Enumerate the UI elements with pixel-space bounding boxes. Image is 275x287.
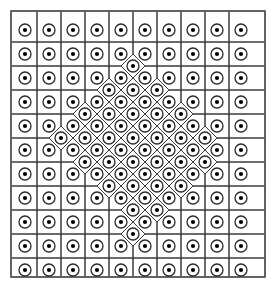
lattice-site-dot <box>119 148 123 152</box>
lattice-site-dot <box>23 76 27 80</box>
lattice-site-dot <box>47 100 51 104</box>
lattice-site-dot <box>23 196 27 200</box>
lattice-site-dot <box>167 172 171 176</box>
lattice-site-dot <box>119 124 123 128</box>
lattice-site-dot <box>143 196 147 200</box>
lattice-site-dot <box>191 172 195 176</box>
lattice-site-dot <box>23 124 27 128</box>
lattice-site-dot <box>107 184 111 188</box>
lattice-site-dot <box>143 172 147 176</box>
lattice-site-dot <box>191 148 195 152</box>
lattice-site-dot <box>47 172 51 176</box>
lattice-site-dot <box>215 172 219 176</box>
lattice-site-dot <box>167 100 171 104</box>
lattice-site-dot <box>71 148 75 152</box>
lattice-site-dot <box>167 28 171 32</box>
lattice-site-dot <box>155 88 159 92</box>
lattice-site-dot <box>191 244 195 248</box>
lattice-site-dot <box>95 148 99 152</box>
lattice-site-dot <box>131 184 135 188</box>
lattice-site-dot <box>83 136 87 140</box>
lattice-site-dot <box>191 52 195 56</box>
lattice-site-dot <box>191 196 195 200</box>
lattice-site-dot <box>215 28 219 32</box>
lattice-site-dot <box>23 268 27 272</box>
lattice-site-dot <box>143 268 147 272</box>
lattice-site-dot <box>167 76 171 80</box>
lattice-site-dot <box>215 244 219 248</box>
lattice-site-dot <box>95 124 99 128</box>
figure-canvas <box>0 0 275 287</box>
lattice-site-dot <box>239 220 243 224</box>
lattice-site-dot <box>155 184 159 188</box>
lattice-site-dot <box>23 100 27 104</box>
lattice-site-dot <box>23 28 27 32</box>
lattice-site-dot <box>47 28 51 32</box>
lattice-site-dot <box>215 76 219 80</box>
lattice-site-dot <box>239 244 243 248</box>
lattice-site-dot <box>119 28 123 32</box>
lattice-site-dot <box>131 112 135 116</box>
lattice-site-dot <box>239 196 243 200</box>
lattice-site-dot <box>71 196 75 200</box>
lattice-site-dot <box>95 52 99 56</box>
lattice-site-dot <box>95 268 99 272</box>
lattice-site-dot <box>23 244 27 248</box>
lattice-site-dot <box>119 172 123 176</box>
lattice-site-dot <box>131 160 135 164</box>
lattice-site-dot <box>239 148 243 152</box>
lattice-site-dot <box>95 196 99 200</box>
lattice-site-dot <box>155 208 159 212</box>
lattice-site-dot <box>191 268 195 272</box>
lattice-site-dot <box>143 220 147 224</box>
lattice-site-dot <box>119 268 123 272</box>
lattice-site-dot <box>71 100 75 104</box>
lattice-site-dot <box>155 160 159 164</box>
lattice-site-dot <box>95 244 99 248</box>
lattice-site-dot <box>23 148 27 152</box>
lattice-site-dot <box>239 28 243 32</box>
lattice-site-dot <box>47 76 51 80</box>
lattice-site-dot <box>131 136 135 140</box>
lattice-site-dot <box>47 52 51 56</box>
lattice-site-dot <box>191 76 195 80</box>
lattice-site-dot <box>95 28 99 32</box>
lattice-site-dot <box>167 196 171 200</box>
lattice-site-dot <box>239 52 243 56</box>
lattice-site-dot <box>131 208 135 212</box>
lattice-site-dot <box>107 88 111 92</box>
lattice-site-dot <box>119 220 123 224</box>
lattice-site-dot <box>71 220 75 224</box>
lattice-site-dot <box>191 220 195 224</box>
lattice-site-dot <box>215 196 219 200</box>
lattice-site-dot <box>47 196 51 200</box>
lattice-site-dot <box>155 112 159 116</box>
lattice-site-dot <box>47 124 51 128</box>
lattice-site-dot <box>95 172 99 176</box>
lattice-site-dot <box>239 100 243 104</box>
lattice-site-dot <box>143 148 147 152</box>
voronoi-diagram <box>0 0 275 287</box>
lattice-site-dot <box>83 112 87 116</box>
lattice-site-dot <box>71 76 75 80</box>
lattice-site-dot <box>203 160 207 164</box>
lattice-site-dot <box>215 220 219 224</box>
lattice-site-dot <box>191 28 195 32</box>
voronoi-cell <box>229 11 265 42</box>
lattice-site-dot <box>71 244 75 248</box>
lattice-site-dot <box>47 244 51 248</box>
lattice-site-dot <box>95 76 99 80</box>
lattice-site-dot <box>167 268 171 272</box>
lattice-site-dot <box>143 52 147 56</box>
lattice-site-dot <box>191 100 195 104</box>
lattice-site-dot <box>215 124 219 128</box>
lattice-site-dot <box>47 268 51 272</box>
lattice-site-dot <box>239 124 243 128</box>
lattice-site-dot <box>215 268 219 272</box>
lattice-site-dot <box>107 112 111 116</box>
lattice-site-dot <box>167 52 171 56</box>
lattice-site-dot <box>23 172 27 176</box>
lattice-site-dot <box>155 136 159 140</box>
lattice-site-dot <box>167 148 171 152</box>
lattice-site-dot <box>23 52 27 56</box>
